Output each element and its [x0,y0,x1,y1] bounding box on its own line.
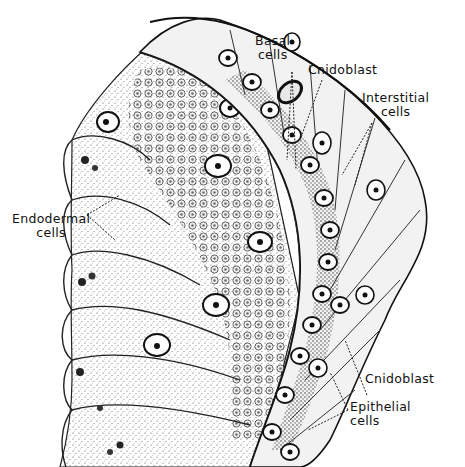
label-epithelial-cells: Epithelial cells [350,400,411,428]
label-interstitial-cells: Interstitial cells [362,91,429,119]
diagram-canvas: Basal cells Cnidoblast Interstitial cell… [0,0,465,467]
label-basal-cells: Basal cells [255,34,290,62]
label-endodermal-cells: Endodermal cells [12,212,90,240]
label-cnidoblast-bottom: Cnidoblast [365,372,434,386]
label-cnidoblast-top: Cnidoblast [308,63,377,77]
